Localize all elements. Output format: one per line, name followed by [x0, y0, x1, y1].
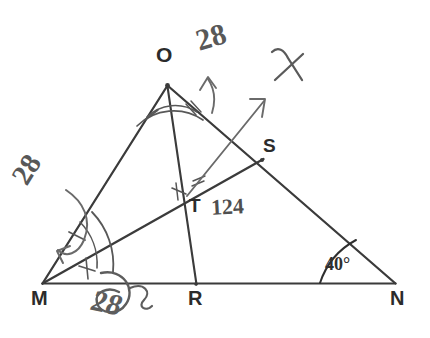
scribble-tail [130, 286, 152, 309]
vertex-label-r: R [188, 288, 202, 308]
vertex-label-n: N [390, 288, 404, 308]
angle-arc-m-outer [92, 212, 113, 272]
geometry-diagram: O S T M R N 28 28 124 40° 28 [0, 0, 430, 338]
vertex-label-s: S [263, 136, 276, 155]
point-dots [165, 83, 264, 286]
tick-t-b [176, 183, 178, 200]
vertex-label-m: M [31, 288, 48, 308]
tick-t-a [172, 188, 186, 194]
pointer-arrow-left [58, 190, 87, 254]
vertex-label-t: T [189, 196, 201, 215]
pointer-arrow-long [187, 101, 264, 196]
tick-m-lower-2 [86, 258, 88, 279]
segment-ms [43, 159, 264, 284]
annotation-angle-n-value: 40° [325, 255, 350, 273]
annotation-angle-t-value: 124 [210, 195, 244, 219]
segment-on [168, 86, 396, 284]
x-mark-stroke-a [272, 49, 302, 80]
vertex-label-o: O [156, 44, 172, 65]
